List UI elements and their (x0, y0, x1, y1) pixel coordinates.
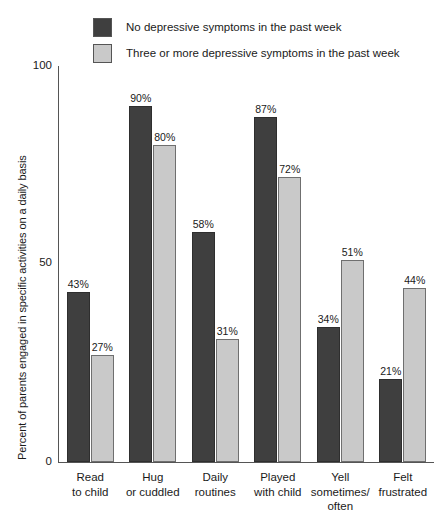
bar-value-label: 90% (130, 92, 151, 104)
legend-label-three-or-more-symptoms: Three or more depressive symptoms in the… (126, 47, 400, 60)
legend-item-no-depressive-symptoms: No depressive symptoms in the past week (93, 14, 433, 40)
bar-value-label: 51% (342, 246, 363, 258)
bar-value-label: 87% (255, 103, 276, 115)
bar: 90% (129, 106, 152, 462)
bar-value-label: 34% (318, 313, 339, 325)
bar: 51% (341, 260, 364, 462)
bar: 44% (403, 288, 426, 462)
bar-value-label: 43% (68, 278, 89, 290)
bar: 34% (317, 327, 340, 462)
y-tick-label-0: 0 (14, 455, 52, 467)
bar: 58% (192, 232, 215, 462)
y-tick-0-wrap: 0 (14, 455, 52, 468)
y-tick-label-100: 100 (14, 59, 52, 71)
y-tick-100-wrap: 100 (14, 59, 52, 72)
plot-area: 43%27%90%80%58%31%87%72%34%51%21%44% (59, 66, 434, 462)
bar-value-label: 27% (92, 341, 113, 353)
bar-group: 43%27% (59, 66, 122, 462)
bar-value-label: 44% (404, 274, 425, 286)
x-axis-line (58, 462, 434, 463)
y-tick-label-50: 50 (14, 256, 52, 268)
bar: 21% (379, 379, 402, 462)
x-axis-category-line: Felt (366, 470, 441, 485)
bar-value-label: 58% (193, 218, 214, 230)
bar-value-label: 80% (154, 131, 175, 143)
bar-group: 21%44% (372, 66, 435, 462)
x-axis-labels: Readto childHugor cuddledDailyroutinesPl… (59, 470, 434, 530)
bar: 43% (67, 292, 90, 462)
bar-group: 58%31% (184, 66, 247, 462)
bar-group: 34%51% (309, 66, 372, 462)
x-axis-category-line: frustrated (366, 485, 441, 500)
bar-value-label: 31% (217, 325, 238, 337)
bar-chart: No depressive symptoms in the past week … (0, 0, 442, 532)
bar: 80% (153, 145, 176, 462)
y-tick-50-wrap: 50 (14, 256, 52, 269)
bar: 27% (91, 355, 114, 462)
bar-value-label: 21% (380, 365, 401, 377)
chart-legend: No depressive symptoms in the past week … (93, 14, 433, 66)
legend-label-no-depressive-symptoms: No depressive symptoms in the past week (126, 21, 341, 34)
bar: 87% (254, 117, 277, 462)
x-axis-category-label: Feltfrustrated (366, 470, 441, 499)
legend-swatch-light (93, 44, 112, 63)
bar-value-label: 72% (279, 163, 300, 175)
x-axis-category-line: often (303, 499, 378, 514)
bar-group: 87%72% (247, 66, 310, 462)
bar: 72% (278, 177, 301, 462)
bar-group: 90%80% (122, 66, 185, 462)
legend-item-three-or-more-symptoms: Three or more depressive symptoms in the… (93, 40, 433, 66)
bar: 31% (216, 339, 239, 462)
legend-swatch-dark (93, 18, 112, 37)
